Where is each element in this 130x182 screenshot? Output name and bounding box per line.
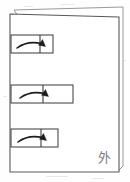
scanned-page-canvas: Scanned page with three callout boxes <box>0 0 130 182</box>
callout-box-1[interactable] <box>11 35 53 53</box>
callout-box-2[interactable] <box>11 85 73 103</box>
page-diagram: 外 <box>0 0 130 182</box>
handwritten-character: 外 <box>98 150 111 165</box>
callout-box-3[interactable] <box>11 129 58 147</box>
handwritten-character-glyph: 外 <box>98 150 111 165</box>
